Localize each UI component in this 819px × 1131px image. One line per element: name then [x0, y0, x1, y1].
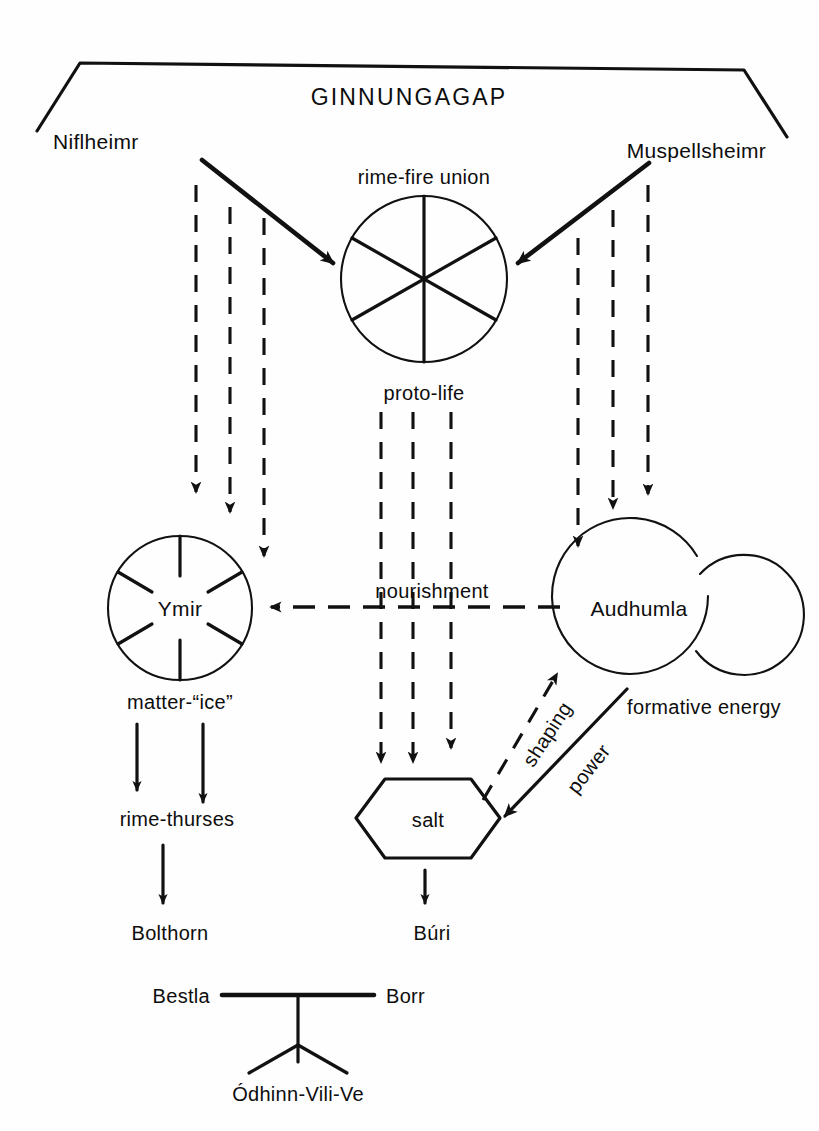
- label-borr: Borr: [386, 985, 425, 1007]
- arrow-niflheimr-to-union: [202, 160, 333, 263]
- dashed-flow-niflheimr-to-ymir: [196, 185, 264, 556]
- label-odhinn-vili-ve: Ódhinn-Vili-Ve: [232, 1083, 364, 1105]
- node-rime-fire-union-wheel: [341, 196, 507, 362]
- label-ginnungagap: GINNUNGAGAP: [311, 84, 508, 110]
- label-nourishment: nourishment: [375, 580, 489, 602]
- label-audhumla: Audhumla: [591, 597, 688, 620]
- label-matter-ice: matter-“ice”: [127, 691, 233, 713]
- label-rime-thurses: rime-thurses: [120, 808, 235, 830]
- label-bestla: Bestla: [153, 985, 211, 1007]
- label-shaping: shaping: [518, 698, 576, 771]
- dashed-flow-muspellsheimr-to-audhumla: [578, 185, 648, 546]
- marriage-link-bestla-borr: [222, 995, 374, 1073]
- label-formative-energy: formative energy: [627, 696, 781, 718]
- diagram-page: GINNUNGAGAP Niflheimr Muspellsheimr rime…: [0, 0, 819, 1131]
- arrow-muspellsheimr-to-union: [518, 163, 649, 263]
- label-salt: salt: [412, 809, 444, 831]
- label-buri: Búri: [414, 922, 451, 944]
- label-niflheimr: Niflheimr: [53, 130, 139, 153]
- arrows-matterice-to-rimethurses: [137, 724, 203, 802]
- label-muspellsheimr: Muspellsheimr: [627, 139, 766, 162]
- label-rime-fire-union: rime-fire union: [358, 166, 490, 188]
- label-proto-life: proto-life: [384, 382, 465, 404]
- label-bolthorn: Bolthorn: [132, 922, 209, 944]
- ginnungagap-diagram-svg: GINNUNGAGAP Niflheimr Muspellsheimr rime…: [0, 0, 819, 1131]
- label-ymir: Ymir: [158, 597, 202, 620]
